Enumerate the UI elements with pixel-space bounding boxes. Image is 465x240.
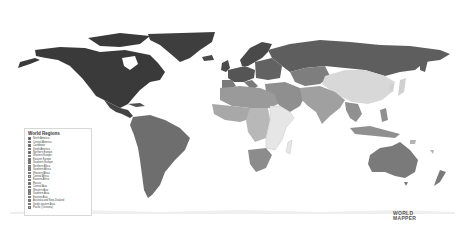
- legend-swatch: [28, 161, 31, 164]
- legend-swatch: [28, 158, 31, 161]
- legend-swatch: [28, 151, 31, 154]
- region-southeast-asia: [345, 102, 400, 138]
- region-japan: [398, 78, 406, 96]
- logo-line-2: MAPPER: [393, 216, 416, 221]
- legend-swatch: [28, 199, 31, 202]
- legend-item: Pacific (Oceania): [28, 206, 88, 209]
- legend-swatch: [28, 172, 31, 175]
- region-pacific: [410, 140, 434, 154]
- region-australia: [368, 142, 418, 178]
- legend-swatch: [28, 175, 31, 178]
- legend-swatch: [28, 168, 31, 171]
- region-madagascar: [286, 140, 292, 154]
- legend-title: World Regions: [28, 131, 88, 136]
- region-north-america: [35, 47, 165, 108]
- region-iceland: [202, 55, 214, 61]
- region-south-america: [130, 115, 190, 198]
- legend-swatch: [28, 186, 31, 189]
- region-alaska-peninsula: [18, 58, 40, 68]
- legend-swatch: [28, 155, 31, 158]
- legend-swatch: [28, 144, 31, 147]
- legend-items: North AmericaCentral AmericaCaribbeanSou…: [28, 137, 88, 209]
- region-new-zealand: [434, 170, 446, 186]
- legend-swatch: [28, 189, 31, 192]
- legend-swatch: [28, 141, 31, 144]
- legend-swatch: [28, 196, 31, 199]
- legend-swatch: [28, 192, 31, 195]
- legend-label: Pacific (Oceania): [33, 206, 53, 209]
- worldmapper-logo: WORLD MAPPER: [393, 211, 416, 221]
- legend-swatch: [28, 179, 31, 182]
- legend-swatch: [28, 182, 31, 185]
- region-southern-africa: [248, 148, 272, 172]
- region-canada-islands: [88, 33, 150, 47]
- map-legend: World Regions North AmericaCentral Ameri…: [24, 128, 92, 216]
- region-tasmania: [404, 182, 408, 186]
- region-kamchatka: [420, 60, 428, 72]
- legend-swatch: [28, 148, 31, 151]
- legend-swatch: [28, 206, 31, 209]
- region-caribbean: [128, 103, 145, 107]
- legend-swatch: [28, 165, 31, 168]
- legend-swatch: [28, 203, 31, 206]
- legend-swatch: [28, 137, 31, 140]
- region-western-europe: [228, 66, 255, 82]
